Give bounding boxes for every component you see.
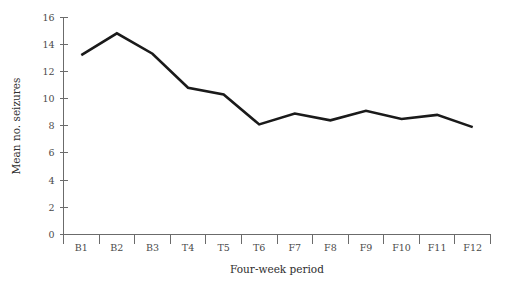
y-axis-tick-label: 0	[48, 229, 54, 240]
x-axis-group: B1B2B3T4T5T6F7F8F9F10F11F12	[64, 235, 491, 253]
x-axis-tick-label: F12	[463, 242, 482, 253]
x-axis-tick-label: T4	[182, 242, 194, 253]
x-axis-tick-label: F7	[288, 242, 301, 253]
y-axis-tick-label: 4	[48, 175, 54, 186]
y-axis-tick-label: 10	[42, 93, 54, 104]
y-axis-tick-label: 8	[48, 120, 54, 131]
y-axis-tick-label: 14	[42, 39, 54, 50]
x-axis-tick-label: T6	[253, 242, 265, 253]
x-axis-tick-label: F10	[392, 242, 411, 253]
x-axis-tick-marks	[64, 235, 491, 244]
chart-plot-area: 0246810121416 B1B2B3T4T5T6F7F8F9F10F11F1…	[0, 0, 520, 291]
x-axis-tick-label: B3	[146, 242, 159, 253]
seizure-mean-series-line	[81, 33, 472, 127]
y-axis-title: Mean no. seizures	[10, 78, 22, 175]
x-axis-title: Four-week period	[230, 263, 324, 275]
y-axis-tick-label: 16	[42, 12, 54, 23]
y-axis-tick-labels: 0246810121416	[42, 12, 54, 241]
x-axis-tick-label: B2	[110, 242, 123, 253]
seizure-frequency-line-chart: 0246810121416 B1B2B3T4T5T6F7F8F9F10F11F1…	[0, 0, 520, 291]
x-axis-tick-label: F11	[428, 242, 447, 253]
x-axis-tick-labels: B1B2B3T4T5T6F7F8F9F10F11F12	[75, 242, 482, 253]
x-axis-tick-label: T5	[217, 242, 229, 253]
x-axis-tick-label: F9	[360, 242, 373, 253]
y-axis-group: 0246810121416	[42, 12, 67, 241]
y-axis-tick-label: 12	[42, 66, 54, 77]
y-axis-tick-label: 2	[48, 202, 54, 213]
x-axis-tick-label: F8	[324, 242, 337, 253]
x-axis-tick-label: B1	[75, 242, 88, 253]
y-axis-tick-label: 6	[48, 147, 54, 158]
